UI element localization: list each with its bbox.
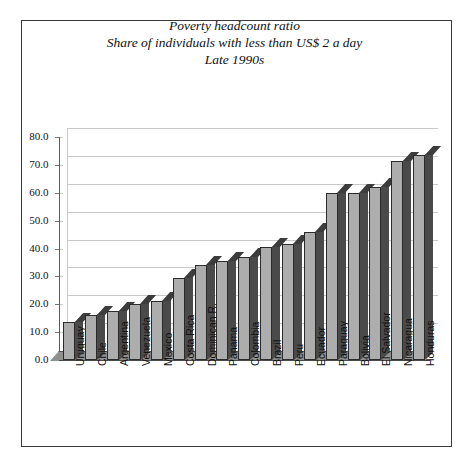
bar-costa-rica[interactable] (173, 269, 185, 360)
bar-front-face (195, 265, 207, 360)
bar-peru[interactable] (282, 235, 294, 360)
y-axis-line (59, 137, 60, 360)
y-axis-label: 0.0 (7, 353, 49, 365)
y-axis-label: 50.0 (7, 214, 49, 226)
plot-area: 0.010.020.030.040.050.060.070.080.0Urugu… (0, 0, 469, 463)
y-axis-label: 20.0 (7, 297, 49, 309)
bar-side-face (360, 186, 368, 360)
y-axis-label: 80.0 (7, 130, 49, 142)
bar-front-face (348, 193, 360, 360)
bar-paraguay[interactable] (326, 184, 338, 360)
gridline (67, 156, 439, 157)
bar-dominican-r[interactable] (195, 256, 207, 360)
y-axis-label: 60.0 (7, 186, 49, 198)
bar-front-face (304, 232, 316, 360)
gridline (67, 128, 439, 129)
y-axis-label: 10.0 (7, 325, 49, 337)
y-axis-label: 70.0 (7, 158, 49, 170)
bar-side-face (294, 237, 302, 360)
y-axis-label: 40.0 (7, 242, 49, 254)
y-axis-label: 30.0 (7, 269, 49, 281)
bar-top-face (425, 146, 441, 155)
x-axis-label: Honduras (424, 320, 436, 366)
floor-front-edge (59, 360, 431, 361)
bar-front-face (326, 193, 338, 360)
bar-front-face (173, 278, 185, 360)
bar-bolivia[interactable] (348, 184, 360, 360)
bar-ecuador[interactable] (304, 223, 316, 360)
bar-front-face (282, 244, 294, 360)
